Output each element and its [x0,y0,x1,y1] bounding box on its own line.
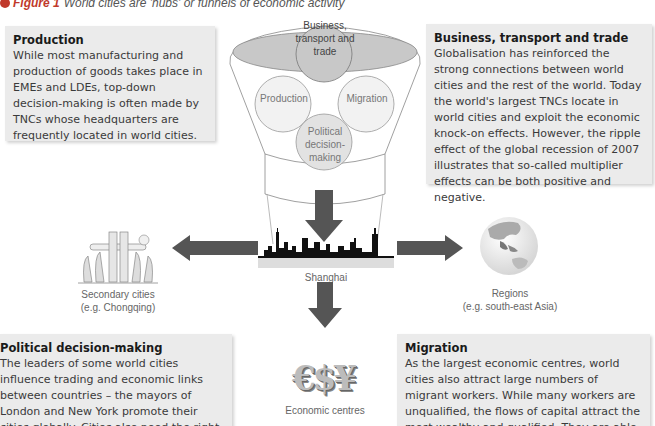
globe-icon [478,215,540,277]
secondary-cities-label: Secondary cities (e.g. Chongqing) [60,288,176,314]
business-title: Business, transport and trade [434,30,644,46]
right-arrow-icon [397,233,463,263]
business-body: Globalisation has reinforced the strong … [434,46,644,206]
production-body: While most manufacturing and production … [13,48,207,144]
circle-production-label: Production [255,92,313,105]
regions-line2: (e.g. south-east Asia) [455,300,565,313]
migration-body: As the largest economic centres, world c… [405,356,642,426]
figure-caption-text: World cities are 'hubs' or funnels of ec… [64,0,345,10]
left-arrow-icon [172,233,258,263]
figure-marker-icon [0,0,10,8]
secondary-cities-line2: (e.g. Chongqing) [60,301,176,314]
economic-centres-label: Economic centres [270,404,380,417]
figure-label: Figure 1 [13,0,60,10]
political-box: Political decision-making The leaders of… [0,334,232,426]
migration-title: Migration [405,340,642,356]
political-body: The leaders of some world cities influen… [0,356,224,426]
figure-caption: Figure 1World cities are 'hubs' or funne… [0,0,344,10]
down-arrow-icon [308,282,342,328]
regions-label: Regions (e.g. south-east Asia) [455,287,565,313]
migration-box: Migration As the largest economic centre… [397,334,650,426]
business-box: Business, transport and trade Globalisat… [426,24,652,184]
secondary-cities-line1: Secondary cities [60,288,176,301]
currency-icon: €$¥ [273,358,373,398]
production-box: Production While most manufacturing and … [5,26,215,141]
circle-migration-label: Migration [338,92,396,105]
secondary-city-icon [76,230,158,286]
regions-line1: Regions [455,287,565,300]
political-title: Political decision-making [0,340,224,356]
production-title: Production [13,32,207,48]
shanghai-skyline-icon [258,228,394,268]
circle-political-label: Political decision-making [296,125,354,164]
circle-business-label: Business, transport and trade [291,19,359,58]
